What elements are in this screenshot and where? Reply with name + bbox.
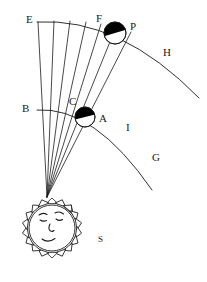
inner-orbit-arc <box>37 110 152 190</box>
label-G: G <box>152 152 160 163</box>
astronomical-diagram: E F P H B C A I G S <box>0 0 207 282</box>
label-F: F <box>96 13 102 24</box>
sun-with-face <box>21 198 82 258</box>
label-P: P <box>130 21 136 32</box>
label-H: H <box>163 47 171 58</box>
sun-disc <box>29 205 75 251</box>
orbit-arcs-group <box>37 22 199 190</box>
label-E: E <box>26 14 33 25</box>
label-I: I <box>126 122 130 133</box>
label-C: C <box>69 96 76 107</box>
diagram-canvas <box>0 0 207 282</box>
label-A: A <box>99 113 107 124</box>
label-B: B <box>22 103 29 114</box>
label-S: S <box>98 235 103 244</box>
